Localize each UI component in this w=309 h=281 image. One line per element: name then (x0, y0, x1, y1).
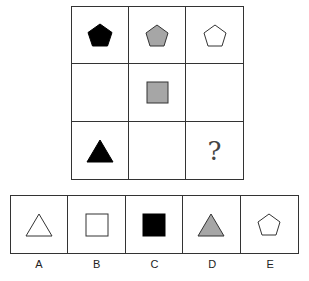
gray-triangle-icon (197, 213, 225, 237)
black-square-icon (142, 213, 166, 237)
black-pentagon-icon (87, 23, 113, 47)
white-pentagon-icon (257, 213, 281, 236)
black-triangle-icon (86, 139, 114, 163)
option-a[interactable] (11, 196, 68, 253)
option-e[interactable] (241, 196, 298, 253)
puzzle-grid: ? (71, 6, 244, 180)
option-b[interactable] (68, 196, 125, 253)
white-triangle-icon (25, 213, 53, 237)
option-label-b: B (68, 258, 126, 270)
grid-cell-3-1 (72, 122, 129, 179)
grid-cell-2-2 (129, 64, 186, 122)
grid-cell-1-2 (129, 7, 186, 64)
grid-cell-3-2 (129, 122, 186, 179)
gray-square-icon (146, 81, 169, 104)
grid-cell-2-1 (72, 64, 129, 122)
question-mark: ? (208, 136, 222, 166)
grid-cell-3-3: ? (186, 122, 243, 179)
white-square-icon (85, 213, 109, 237)
grid-cell-2-3 (186, 64, 243, 122)
grid-cell-1-1 (72, 7, 129, 64)
white-pentagon-icon (203, 24, 227, 47)
option-d[interactable] (183, 196, 240, 253)
option-label-c: C (126, 258, 184, 270)
answer-options (10, 195, 299, 254)
grid-cell-1-3 (186, 7, 243, 64)
gray-pentagon-icon (145, 24, 169, 47)
option-labels: A B C D E (10, 258, 299, 270)
option-c[interactable] (126, 196, 183, 253)
option-label-a: A (10, 258, 68, 270)
option-label-d: D (183, 258, 241, 270)
option-label-e: E (241, 258, 299, 270)
